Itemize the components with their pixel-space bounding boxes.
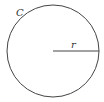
radius-label: r bbox=[71, 39, 77, 50]
circle-diagram: C r bbox=[0, 0, 104, 102]
circle-label: C bbox=[16, 7, 24, 18]
